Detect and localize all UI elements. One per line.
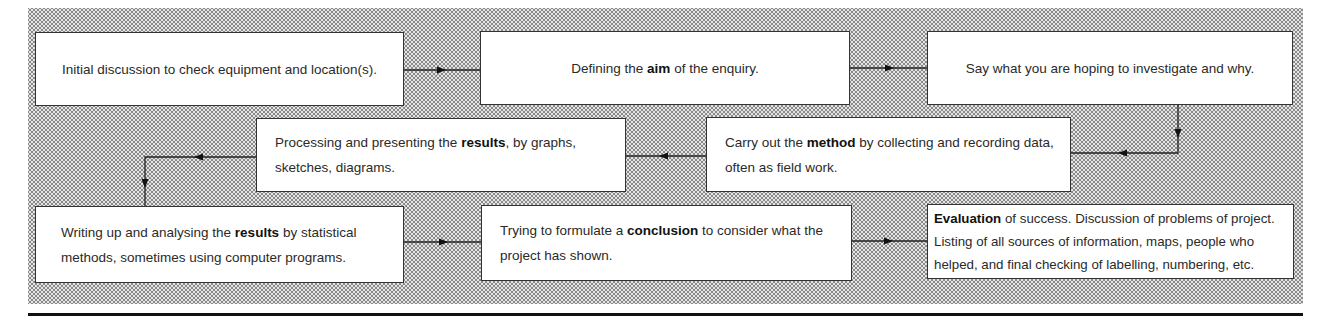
step-text: Carry out the [725, 135, 807, 150]
step-hypothesis: Say what you are hoping to investigate a… [927, 31, 1293, 105]
step-process-results: Processing and presenting the results, b… [256, 118, 626, 192]
step-keyword: method [807, 135, 856, 150]
step-keyword: results [235, 225, 279, 240]
step-text: Defining the [571, 61, 647, 76]
step-text: of the enquiry. [670, 61, 758, 76]
step-conclusion: Trying to formulate a conclusion to cons… [481, 205, 852, 281]
step-keyword: results [461, 135, 505, 150]
step-analyse-results: Writing up and analysing the results by … [35, 206, 404, 283]
bottom-rule [28, 313, 1303, 316]
step-text: Writing up and analysing the [61, 225, 235, 240]
step-carry-out-method: Carry out the method by collecting and r… [706, 117, 1071, 192]
step-initial-discussion: Initial discussion to check equipment an… [35, 32, 404, 106]
step-text: Processing and presenting the [275, 135, 461, 150]
step-keyword: Evaluation [934, 211, 1001, 226]
step-define-aim: Defining the aim of the enquiry. [480, 31, 850, 105]
step-text: Initial discussion to check equipment an… [62, 62, 377, 77]
step-keyword: conclusion [627, 223, 698, 238]
step-evaluation: Evaluation of success. Discussion of pro… [927, 204, 1294, 279]
step-text: Say what you are hoping to investigate a… [966, 61, 1255, 76]
step-text: Trying to formulate a [500, 223, 627, 238]
step-keyword: aim [647, 61, 670, 76]
